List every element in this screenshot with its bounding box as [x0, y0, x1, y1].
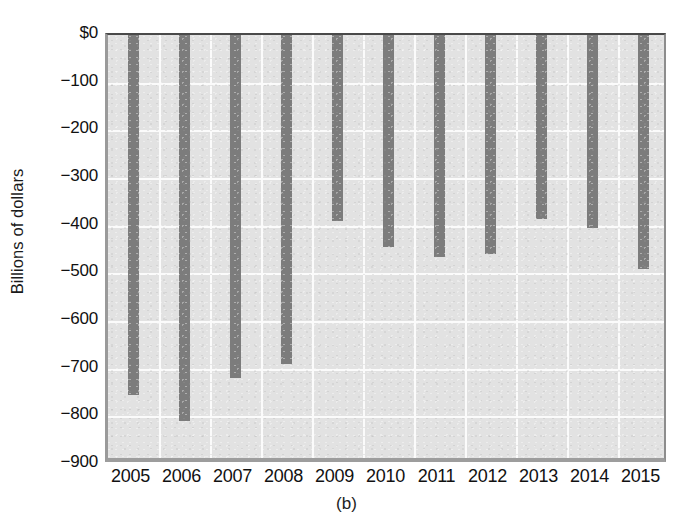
vertical-gridline	[618, 35, 620, 458]
bar-2014	[587, 35, 598, 228]
y-tick-label: −700	[61, 357, 99, 377]
vertical-gridline	[516, 35, 518, 458]
vertical-gridline	[210, 35, 212, 458]
y-tick-label: −500	[61, 261, 99, 281]
bar-2008	[281, 35, 292, 364]
bar-2009	[332, 35, 343, 221]
y-tick-label: −300	[61, 166, 99, 186]
vertical-gridline	[312, 35, 314, 458]
bar-2006	[179, 35, 190, 421]
x-axis-tick-labels: 2005200620072008200920102011201220132014…	[105, 466, 666, 496]
gridline--800	[108, 416, 664, 418]
x-tick-label-2008: 2008	[264, 466, 303, 487]
bar-2005	[128, 35, 139, 395]
bar-2013	[536, 35, 547, 219]
x-tick-label-2012: 2012	[468, 466, 507, 487]
y-axis-title-text: Billions of dollars	[9, 168, 28, 294]
y-tick-label: −200	[61, 118, 99, 138]
x-tick-label-2005: 2005	[111, 466, 150, 487]
gridline--600	[108, 321, 664, 323]
x-tick-label-2007: 2007	[213, 466, 252, 487]
y-tick-label: $0	[79, 23, 98, 43]
chart-figure: Billions of dollars $0−100−200−300−400−5…	[0, 0, 693, 525]
panel-caption: (b)	[0, 494, 693, 514]
gridline--500	[108, 273, 664, 275]
vertical-gridline	[363, 35, 365, 458]
vertical-gridline	[465, 35, 467, 458]
bar-2015	[638, 35, 649, 269]
x-tick-label-2010: 2010	[366, 466, 405, 487]
x-tick-label-2009: 2009	[315, 466, 354, 487]
y-axis-title: Billions of dollars	[0, 0, 36, 462]
plot-area	[105, 33, 666, 462]
y-tick-label: −600	[61, 309, 99, 329]
y-tick-label: −900	[61, 452, 99, 472]
y-axis-tick-labels: $0−100−200−300−400−500−600−700−800−900	[36, 0, 102, 470]
bar-2007	[230, 35, 241, 378]
gridline--700	[108, 369, 664, 371]
vertical-gridline	[159, 35, 161, 458]
bar-2012	[485, 35, 496, 254]
x-tick-label-2015: 2015	[621, 466, 660, 487]
vertical-gridline	[414, 35, 416, 458]
vertical-gridline	[261, 35, 263, 458]
x-tick-label-2013: 2013	[519, 466, 558, 487]
y-tick-label: −800	[61, 404, 99, 424]
y-tick-label: −100	[61, 71, 99, 91]
bar-2011	[434, 35, 445, 257]
vertical-gridline	[567, 35, 569, 458]
x-tick-label-2014: 2014	[570, 466, 609, 487]
x-tick-label-2011: 2011	[418, 466, 456, 487]
x-tick-label-2006: 2006	[162, 466, 201, 487]
y-tick-label: −400	[61, 214, 99, 234]
bar-2010	[383, 35, 394, 247]
